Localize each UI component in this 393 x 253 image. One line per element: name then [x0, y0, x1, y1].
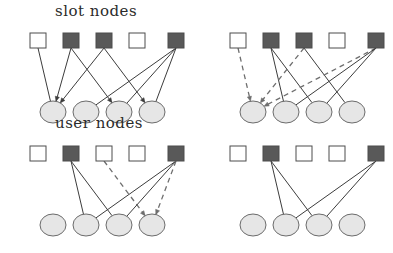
slot-node-occupied[interactable]: [368, 146, 384, 161]
slot-node-empty[interactable]: [129, 146, 145, 161]
user-node[interactable]: [240, 101, 266, 123]
edge-solid: [127, 161, 176, 216]
user-node[interactable]: [339, 101, 365, 123]
slot-node-empty[interactable]: [230, 146, 246, 161]
panel-top-right: [230, 33, 384, 123]
edge-arrowhead: [140, 211, 145, 216]
edge-solid: [38, 48, 50, 101]
edge-solid: [296, 48, 376, 105]
edge-arrowhead: [156, 209, 160, 214]
slot-node-occupied[interactable]: [168, 146, 184, 161]
user-node[interactable]: [106, 214, 132, 236]
edge-arrowhead: [264, 102, 269, 106]
edge-dashed: [156, 161, 176, 215]
edge-arrowhead: [107, 98, 112, 103]
slot-node-occupied[interactable]: [368, 33, 384, 48]
slot-node-occupied[interactable]: [263, 146, 279, 161]
edge-arrowhead: [55, 96, 59, 101]
slot-nodes-label: slot nodes: [55, 2, 137, 20]
slot-node-empty[interactable]: [30, 33, 46, 48]
slot-node-occupied[interactable]: [63, 33, 79, 48]
edge-solid: [96, 161, 176, 218]
slot-node-empty[interactable]: [296, 146, 312, 161]
edge-solid: [60, 48, 104, 103]
edge-solid: [127, 48, 176, 103]
slot-node-empty[interactable]: [96, 146, 112, 161]
edge-solid: [71, 48, 112, 103]
user-node[interactable]: [306, 214, 332, 236]
user-node[interactable]: [40, 214, 66, 236]
panel-bottom-left: [30, 146, 184, 236]
edge-dashed: [238, 48, 250, 101]
slot-node-empty[interactable]: [329, 33, 345, 48]
user-node[interactable]: [73, 214, 99, 236]
edge-solid: [327, 48, 376, 103]
user-node[interactable]: [273, 214, 299, 236]
slot-node-empty[interactable]: [129, 33, 145, 48]
panel-bottom-right: [230, 146, 384, 236]
edge-arrowhead: [247, 96, 251, 101]
slot-node-occupied[interactable]: [263, 33, 279, 48]
user-node[interactable]: [339, 214, 365, 236]
slot-node-occupied[interactable]: [96, 33, 112, 48]
slot-node-empty[interactable]: [30, 146, 46, 161]
bipartite-graph-figure: slot nodes user nodes: [0, 0, 393, 253]
slot-node-occupied[interactable]: [168, 33, 184, 48]
user-node[interactable]: [139, 214, 165, 236]
edge-solid: [96, 48, 176, 105]
slot-node-occupied[interactable]: [63, 146, 79, 161]
edge-solid: [327, 161, 376, 216]
user-node[interactable]: [273, 101, 299, 123]
panel-top-left: [30, 33, 184, 123]
edge-arrowhead: [140, 98, 145, 103]
slot-node-empty[interactable]: [230, 33, 246, 48]
slot-node-occupied[interactable]: [296, 33, 312, 48]
user-node[interactable]: [306, 101, 332, 123]
slot-node-empty[interactable]: [329, 146, 345, 161]
edge-solid: [156, 48, 176, 102]
user-node[interactable]: [240, 214, 266, 236]
edge-solid: [296, 161, 376, 218]
user-nodes-label: user nodes: [55, 114, 143, 132]
edge-solid: [56, 48, 71, 101]
